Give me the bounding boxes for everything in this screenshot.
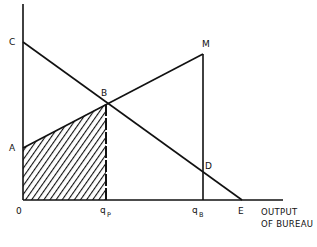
- label-d: D: [205, 161, 212, 171]
- x-axis-label-line2: OF BUREAU: [261, 219, 313, 229]
- label-e: E: [238, 206, 244, 216]
- label-a: A: [9, 143, 16, 153]
- svg-text:B: B: [199, 211, 203, 219]
- label-qb: q B: [192, 205, 203, 219]
- svg-text:q: q: [192, 205, 198, 215]
- svg-text:q: q: [100, 205, 106, 215]
- cost-line-am: [23, 54, 203, 148]
- label-c: C: [9, 37, 15, 47]
- hatched-area: [23, 104, 106, 200]
- x-axis-label-line1: OUTPUT: [261, 207, 298, 217]
- label-b: B: [101, 88, 107, 98]
- label-origin: 0: [16, 206, 22, 216]
- bureau-output-diagram: C A 0 B M D E q P q B OUTPUT OF BUREAU: [0, 0, 317, 247]
- label-m: M: [202, 39, 210, 49]
- label-qp: q P: [100, 205, 111, 219]
- svg-text:P: P: [107, 211, 111, 219]
